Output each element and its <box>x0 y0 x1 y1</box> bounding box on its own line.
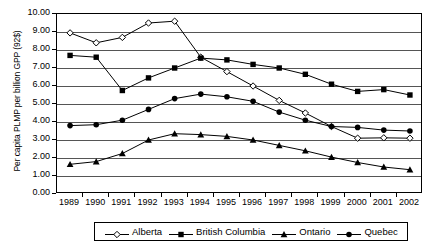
data-point-filled-square <box>198 55 203 60</box>
data-point-filled-square <box>67 53 72 58</box>
data-point-filled-circle <box>355 125 361 131</box>
data-point-open-diamond <box>114 231 120 237</box>
data-point-filled-square <box>277 65 282 70</box>
data-point-filled-square <box>250 62 255 67</box>
y-tick-mark <box>52 175 56 176</box>
legend-label: British Columbia <box>196 227 265 237</box>
data-point-open-diamond <box>250 83 256 89</box>
legend-marker-filled-circle-icon <box>336 226 362 237</box>
legend-label: Alberta <box>132 227 162 237</box>
data-point-filled-circle <box>67 123 73 129</box>
y-tick-label: 6.00 <box>12 80 50 89</box>
data-point-filled-square <box>120 88 125 93</box>
data-point-open-diamond <box>93 40 99 46</box>
data-point-filled-circle <box>250 99 256 105</box>
x-tick-mark <box>239 193 240 197</box>
legend-item-british-columbia: British Columbia <box>168 226 265 237</box>
data-point-filled-circle <box>93 122 99 128</box>
series-alberta <box>67 18 413 141</box>
x-tick-mark <box>134 193 135 197</box>
data-point-filled-circle <box>347 232 353 238</box>
data-point-open-diamond <box>224 68 230 74</box>
data-point-filled-circle <box>303 117 309 123</box>
data-point-filled-circle <box>329 124 335 130</box>
x-tick-mark <box>317 193 318 197</box>
y-tick-label: 1.00 <box>12 170 50 179</box>
y-tick-mark <box>52 31 56 32</box>
data-point-filled-square <box>329 82 334 87</box>
y-tick-mark <box>52 67 56 68</box>
legend-item-quebec: Quebec <box>336 226 397 237</box>
chart-legend: AlbertaBritish ColumbiaOntarioQuebec <box>94 222 408 241</box>
y-tick-label: 2.00 <box>12 152 50 161</box>
data-point-filled-square <box>381 87 386 92</box>
y-axis-tick-labels: 0.001.002.003.004.005.006.007.008.009.00… <box>12 0 50 247</box>
y-tick-mark <box>52 139 56 140</box>
data-point-filled-square <box>146 75 151 80</box>
x-tick-mark <box>265 193 266 197</box>
data-point-filled-circle <box>407 128 413 134</box>
y-tick-label: 8.00 <box>12 44 50 53</box>
data-point-open-diamond <box>381 135 387 141</box>
data-point-open-diamond <box>67 30 73 36</box>
x-axis-tick-labels: 1989199019911992199319941995199619971998… <box>56 197 422 211</box>
y-tick-mark <box>52 49 56 50</box>
y-tick-mark <box>52 13 56 14</box>
data-point-filled-square <box>172 65 177 70</box>
legend-item-ontario: Ontario <box>271 226 330 237</box>
x-tick-mark <box>187 193 188 197</box>
data-point-open-diamond <box>276 97 282 103</box>
x-tick-mark <box>291 193 292 197</box>
data-point-filled-circle <box>198 91 204 97</box>
data-point-open-diamond <box>407 135 413 141</box>
legend-marker-filled-square-icon <box>168 226 194 237</box>
y-tick-label: 0.00 <box>12 188 50 197</box>
data-point-filled-square <box>178 232 183 237</box>
y-tick-mark <box>52 103 56 104</box>
y-tick-label: 3.00 <box>12 134 50 143</box>
data-point-open-diamond <box>302 110 308 116</box>
y-tick-mark <box>52 121 56 122</box>
data-point-filled-circle <box>224 94 230 100</box>
data-point-filled-circle <box>381 127 387 133</box>
y-tick-label: 9.00 <box>12 26 50 35</box>
x-tick-mark <box>82 193 83 197</box>
x-tick-mark <box>213 193 214 197</box>
data-point-filled-circle <box>120 117 126 123</box>
y-tick-label: 4.00 <box>12 116 50 125</box>
data-point-open-diamond <box>354 135 360 141</box>
data-point-filled-triangle <box>119 150 126 156</box>
data-point-open-diamond <box>145 20 151 26</box>
y-tick-label: 7.00 <box>12 62 50 71</box>
series-british-columbia <box>67 53 412 98</box>
legend-marker-open-diamond-icon <box>104 226 130 237</box>
data-point-filled-square <box>355 89 360 94</box>
legend-label: Ontario <box>299 227 330 237</box>
x-tick-mark <box>396 193 397 197</box>
data-point-filled-square <box>303 72 308 77</box>
y-tick-mark <box>52 85 56 86</box>
x-tick-label: 2002 <box>392 197 426 207</box>
data-point-filled-square <box>94 55 99 60</box>
y-tick-label: 5.00 <box>12 98 50 107</box>
data-point-filled-square <box>407 92 412 97</box>
legend-label: Quebec <box>364 227 397 237</box>
series-quebec <box>67 91 412 133</box>
legend-item-alberta: Alberta <box>104 226 162 237</box>
data-point-filled-circle <box>172 96 178 102</box>
series-ontario <box>67 130 414 172</box>
data-point-open-diamond <box>119 34 125 40</box>
data-point-filled-circle <box>146 107 152 113</box>
series-layer <box>57 14 423 194</box>
x-tick-mark <box>370 193 371 197</box>
y-tick-mark <box>52 193 56 194</box>
legend-marker-filled-triangle-icon <box>271 226 297 237</box>
data-point-filled-circle <box>276 109 282 115</box>
data-point-filled-square <box>224 57 229 62</box>
line-chart: Per capita PLMP per billion GPP (92$) 0.… <box>0 0 432 247</box>
plot-area <box>56 13 422 193</box>
y-tick-mark <box>52 157 56 158</box>
x-tick-mark <box>161 193 162 197</box>
x-tick-mark <box>108 193 109 197</box>
y-tick-label: 10.00 <box>12 8 50 17</box>
